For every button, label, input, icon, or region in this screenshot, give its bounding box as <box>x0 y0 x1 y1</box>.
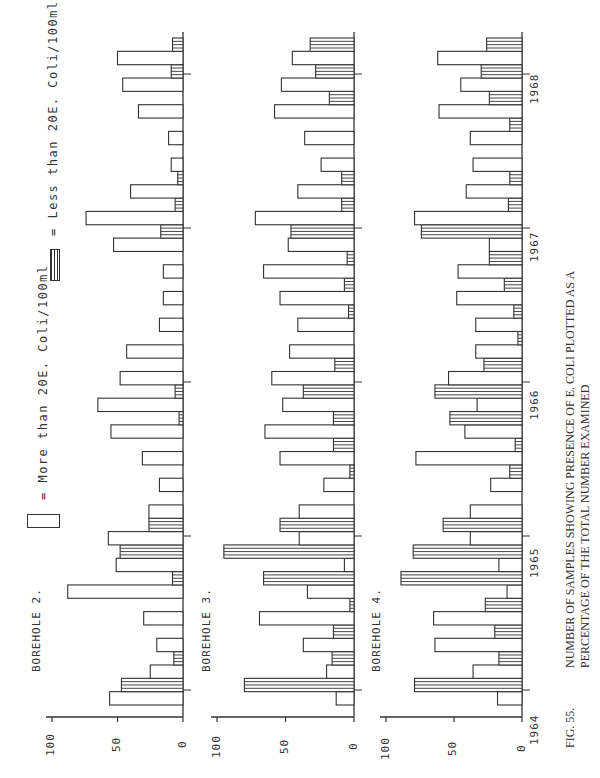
bar-more-than-20 <box>477 398 522 411</box>
bar-more-than-20 <box>163 291 183 304</box>
bar-more-than-20 <box>114 238 183 251</box>
bar-more-than-20 <box>150 665 183 678</box>
chart-canvas <box>0 0 600 778</box>
bar-more-than-20 <box>303 638 354 651</box>
panel-borehole-3 <box>211 32 362 722</box>
bar-more-than-20 <box>163 265 183 278</box>
bar-more-than-20 <box>344 558 354 571</box>
bar-more-than-20 <box>142 452 183 465</box>
bar-more-than-20 <box>438 51 522 64</box>
bar-more-than-20 <box>327 665 354 678</box>
bar-more-than-20 <box>470 532 522 545</box>
bar-more-than-20 <box>461 78 522 91</box>
bar-more-than-20 <box>98 398 183 411</box>
bar-more-than-20 <box>305 131 354 144</box>
bar-more-than-20 <box>415 211 522 224</box>
bar-more-than-20 <box>324 478 354 491</box>
bar-more-than-20 <box>307 585 354 598</box>
axis-tick-50-p4: 50 <box>446 741 459 756</box>
bar-more-than-20 <box>280 452 354 465</box>
axis-tick-100-p4: 100 <box>379 737 392 760</box>
axis-tick-0-p3: 0 <box>347 742 360 750</box>
panel-borehole-4 <box>380 32 530 722</box>
bar-more-than-20 <box>288 238 354 251</box>
bar-more-than-20 <box>265 425 354 438</box>
bar-more-than-20 <box>416 452 522 465</box>
bar-more-than-20 <box>118 51 184 64</box>
bar-more-than-20 <box>439 105 522 118</box>
bar-more-than-20 <box>292 51 354 64</box>
bar-more-than-20 <box>336 692 354 705</box>
bar-more-than-20 <box>123 78 183 91</box>
bar-more-than-20 <box>169 131 183 144</box>
bar-more-than-20 <box>299 532 354 545</box>
bar-more-than-20 <box>435 638 522 651</box>
bar-more-than-20 <box>283 398 354 411</box>
caption-line-2: PERCENTAGE OF THE TOTAL NUMBER EXAMINED <box>578 385 593 668</box>
bar-more-than-20 <box>131 185 183 198</box>
legend-hatched-swatch <box>50 249 60 281</box>
bar-more-than-20 <box>470 131 522 144</box>
bar-more-than-20 <box>149 505 183 518</box>
bar-more-than-20 <box>449 372 522 385</box>
bar-more-than-20 <box>465 425 522 438</box>
bar-more-than-20 <box>138 105 183 118</box>
axis-tick-0-p4: 0 <box>515 744 528 752</box>
bar-more-than-20 <box>68 585 183 598</box>
bar-more-than-20 <box>275 105 354 118</box>
bar-more-than-20 <box>473 665 522 678</box>
bar-more-than-20 <box>299 505 354 518</box>
bar-more-than-20 <box>498 692 522 705</box>
bar-more-than-20 <box>491 478 522 491</box>
bar-more-than-20 <box>489 238 522 251</box>
year-label-1968: 1968 <box>528 74 541 105</box>
bar-more-than-20 <box>499 558 522 571</box>
bar-more-than-20 <box>116 558 183 571</box>
bar-more-than-20 <box>458 265 522 278</box>
axis-tick-50-p2: 50 <box>110 737 123 752</box>
bar-more-than-20 <box>110 692 183 705</box>
year-label-1964: 1964 <box>528 715 541 746</box>
axis-tick-100-p3: 100 <box>210 735 223 758</box>
bar-more-than-20 <box>280 291 354 304</box>
bar-more-than-20 <box>108 532 183 545</box>
figure-number: FIG. 55. <box>563 708 578 748</box>
bar-more-than-20 <box>157 638 183 651</box>
caption-line-1: NUMBER OF SAMPLES SHOWING PRESENCE OF E.… <box>563 271 578 668</box>
axis-tick-0-p2: 0 <box>176 740 189 748</box>
year-label-1967: 1967 <box>528 232 541 263</box>
axis-tick-100-p2: 100 <box>44 733 57 756</box>
axis-tick-50-p3: 50 <box>278 739 291 754</box>
legend-open-swatch <box>27 514 60 528</box>
legend-hatched-label: = Less than 20E. Coli/100ml <box>46 0 60 236</box>
bar-more-than-20 <box>298 318 354 331</box>
bar-more-than-20 <box>434 612 522 625</box>
bar-more-than-20 <box>86 211 183 224</box>
bar-more-than-20 <box>144 612 183 625</box>
bar-more-than-20 <box>507 585 522 598</box>
bar-more-than-20 <box>259 612 354 625</box>
year-label-1965: 1965 <box>528 548 541 579</box>
legend-open-label: = More than 20E. Coli/100ml <box>36 264 50 500</box>
panel-borehole-2 <box>46 32 191 722</box>
bar-more-than-20 <box>127 345 183 358</box>
bar-more-than-20 <box>120 372 183 385</box>
bar-more-than-20 <box>159 318 183 331</box>
bar-more-than-20 <box>272 372 354 385</box>
bar-more-than-20 <box>470 505 522 518</box>
bar-more-than-20 <box>290 345 354 358</box>
bar-more-than-20 <box>298 185 354 198</box>
panel-label-borehole-3: BOREHOLE 3. <box>200 588 213 672</box>
bar-more-than-20 <box>111 425 183 438</box>
bar-more-than-20 <box>476 345 522 358</box>
bar-more-than-20 <box>159 478 183 491</box>
bar-more-than-20 <box>473 158 522 171</box>
bar-more-than-20 <box>466 185 522 198</box>
panels <box>46 32 530 722</box>
bar-more-than-20 <box>476 318 522 331</box>
year-label-1966: 1966 <box>528 390 541 421</box>
bar-more-than-20 <box>255 211 354 224</box>
bar-more-than-20 <box>457 291 522 304</box>
panel-label-borehole-4: BOREHOLE 4. <box>370 588 383 672</box>
bar-more-than-20 <box>171 158 183 171</box>
